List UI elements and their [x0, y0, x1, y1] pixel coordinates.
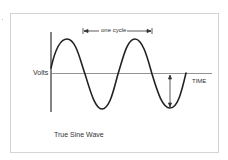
sine-wave-curve — [51, 39, 186, 109]
diagram-title: True Sine Wave — [54, 131, 104, 138]
y-axis-label: Volts — [33, 69, 48, 76]
x-axis-label: TIME — [192, 78, 206, 84]
one-cycle-label: one cycle — [101, 27, 126, 33]
amplitude-arrow — [169, 75, 172, 107]
